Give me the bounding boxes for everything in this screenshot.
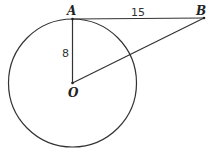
label-point-o: O xyxy=(68,86,79,100)
label-segment-ao: 8 xyxy=(62,47,69,60)
geometry-diagram: A B O 15 8 xyxy=(0,0,207,148)
segment-ob xyxy=(73,18,205,83)
point-a xyxy=(71,18,74,21)
label-segment-ab: 15 xyxy=(131,6,145,19)
label-point-b: B xyxy=(195,4,206,18)
point-o xyxy=(71,82,74,85)
label-point-a: A xyxy=(66,4,76,18)
